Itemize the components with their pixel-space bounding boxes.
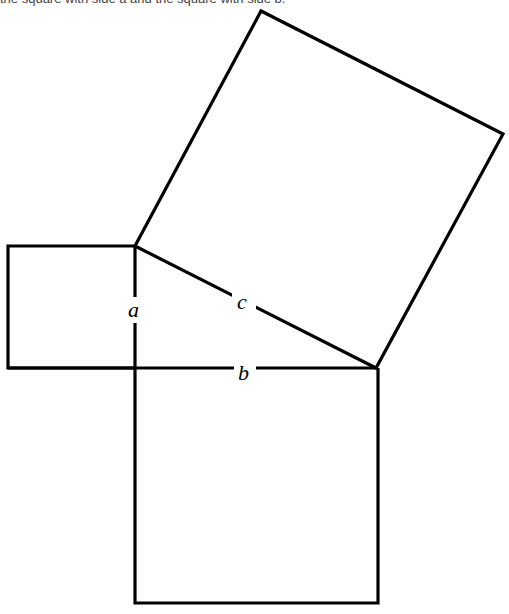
pythagorean-diagram: a c b [0, 0, 509, 614]
square-on-c [135, 11, 503, 368]
label-b: b [238, 360, 249, 385]
square-on-a [8, 246, 135, 368]
label-a: a [128, 297, 139, 322]
square-on-b [135, 368, 378, 603]
label-c: c [237, 289, 247, 314]
